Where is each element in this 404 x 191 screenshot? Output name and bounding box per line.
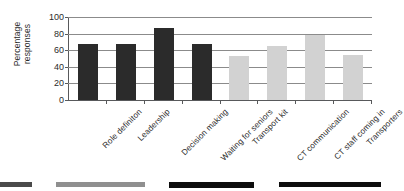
ytick-mark-20 bbox=[65, 83, 68, 84]
cropped-bar bbox=[0, 182, 32, 187]
x-tick bbox=[182, 100, 183, 104]
bar-slot bbox=[145, 17, 183, 100]
ytick-label-80: 80 bbox=[54, 29, 64, 38]
x-tick bbox=[371, 100, 372, 104]
bar[interactable] bbox=[267, 46, 287, 100]
cropped-figure-strip bbox=[0, 182, 381, 191]
bar-slot bbox=[334, 17, 372, 100]
x-tick bbox=[220, 100, 221, 104]
bar[interactable] bbox=[229, 56, 249, 100]
x-tick bbox=[257, 100, 258, 104]
ytick-label-60: 60 bbox=[54, 46, 64, 55]
bar-slot bbox=[221, 17, 259, 100]
x-tick bbox=[106, 100, 107, 104]
ytick-mark-60 bbox=[65, 50, 68, 51]
cropped-bar bbox=[279, 182, 381, 187]
ytick-mark-0 bbox=[65, 100, 68, 101]
bar-slot bbox=[258, 17, 296, 100]
ytick-mark-40 bbox=[65, 67, 68, 68]
x-tick bbox=[144, 100, 145, 104]
bar[interactable] bbox=[116, 44, 136, 100]
bar-slot bbox=[296, 17, 334, 100]
bar[interactable] bbox=[78, 44, 98, 100]
ytick-label-0: 0 bbox=[59, 96, 64, 105]
y-axis-title: Percentage responses bbox=[12, 0, 32, 90]
x-axis-label: Decision making bbox=[179, 107, 229, 157]
bar[interactable] bbox=[192, 44, 212, 100]
ytick-label-20: 20 bbox=[54, 79, 64, 88]
cropped-bar bbox=[56, 182, 145, 187]
x-tick bbox=[333, 100, 334, 104]
ytick-mark-100 bbox=[65, 17, 68, 18]
bar[interactable] bbox=[343, 55, 363, 100]
ytick-label-40: 40 bbox=[54, 62, 64, 71]
x-axis-label: Role definiton bbox=[101, 107, 144, 150]
bar[interactable] bbox=[154, 28, 174, 100]
bar-group bbox=[69, 17, 372, 100]
x-tick bbox=[295, 100, 296, 104]
plot-area: 100 80 60 40 20 0 bbox=[68, 17, 372, 100]
bar-slot bbox=[183, 17, 221, 100]
cropped-bar bbox=[169, 182, 254, 188]
ytick-mark-80 bbox=[65, 34, 68, 35]
bar-slot bbox=[107, 17, 145, 100]
ytick-label-100: 100 bbox=[49, 13, 64, 22]
bar[interactable] bbox=[305, 35, 325, 100]
bar-slot bbox=[69, 17, 107, 100]
